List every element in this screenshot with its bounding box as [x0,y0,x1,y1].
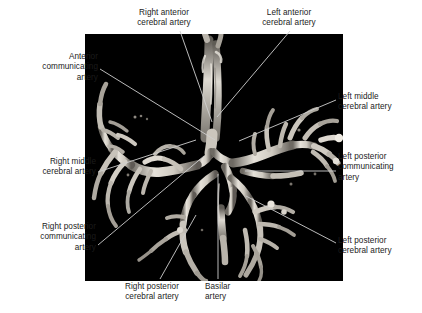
angiogram-image-panel [85,34,343,281]
label-right-posterior-communicating-artery: Right posterior communicating artery [6,222,96,253]
label-right-posterior-cerebral-artery: Right posterior cerebral artery [104,282,200,303]
label-left-posterior-cerebral-artery: Left posterior cerebral artery [338,236,422,257]
label-left-middle-cerebral-artery: Left middle cerebral artery [338,92,422,113]
label-right-middle-cerebral-artery: Right middle cerebral artery [8,157,96,178]
label-left-posterior-communicating-artery: Left posterior communicating artery [338,152,422,183]
label-right-anterior-cerebral-artery: Right anterior cerebral artery [118,8,210,29]
label-left-anterior-cerebral-artery: Left anterior cerebral artery [244,8,334,29]
angiogram-figure: Right anterior cerebral artery Left ante… [0,0,422,313]
circle-of-willis-vessels [85,34,343,281]
label-anterior-communicating-artery: Anterior communicating artery [16,52,98,83]
label-basilar-artery: Basilar artery [205,282,267,303]
